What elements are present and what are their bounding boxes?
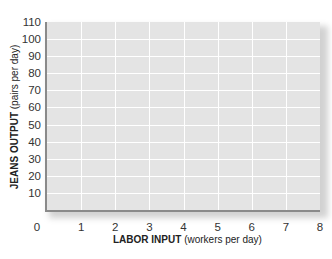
x-axis-label-bold: LABOR INPUT xyxy=(113,234,181,245)
y-axis-label-bold: JEANS OUTPUT xyxy=(9,112,20,189)
x-tick-label: 1 xyxy=(71,221,91,233)
gridline-vertical xyxy=(81,22,82,210)
y-tick-label: 110 xyxy=(11,16,41,28)
x-axis-label-units: (workers per day) xyxy=(184,234,262,245)
plot-area xyxy=(45,22,320,212)
x-tick-label: 6 xyxy=(242,221,262,233)
gridline-vertical xyxy=(149,22,150,210)
gridline-vertical xyxy=(218,22,219,210)
x-tick-label: 7 xyxy=(276,221,296,233)
x-tick-label: 3 xyxy=(139,221,159,233)
y-tick-label: 100 xyxy=(11,33,41,45)
x-tick-label: 2 xyxy=(105,221,125,233)
x-tick-label: 5 xyxy=(208,221,228,233)
y-axis-label-units: (pairs per day) xyxy=(9,45,20,109)
x-tick-label: 4 xyxy=(174,221,194,233)
gridline-vertical xyxy=(184,22,185,210)
gridline-vertical xyxy=(115,22,116,210)
x-tick-label: 8 xyxy=(310,221,330,233)
gridline-vertical xyxy=(252,22,253,210)
gridline-vertical xyxy=(286,22,287,210)
x-axis-label: LABOR INPUT (workers per day) xyxy=(113,234,262,245)
chart: 102030405060708090100110 012345678 LABOR… xyxy=(0,0,332,259)
x-tick-label: 0 xyxy=(27,221,47,233)
y-axis-label: JEANS OUTPUT (pairs per day) xyxy=(9,45,20,189)
